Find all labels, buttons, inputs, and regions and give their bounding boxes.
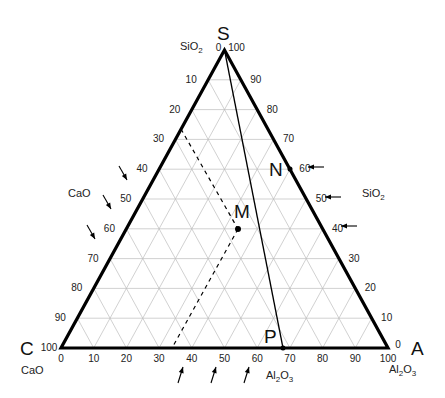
arrowhead-icon (212, 367, 217, 373)
point-label-p: P (264, 326, 277, 347)
point-label-m: M (234, 201, 250, 222)
tick-right: 40 (332, 223, 344, 234)
tick-bottom: 40 (186, 353, 198, 364)
tick-bottom: 30 (154, 353, 166, 364)
tick-bottom: 70 (284, 353, 296, 364)
tick-left: 30 (153, 133, 165, 144)
tick-vertex: 100 (41, 342, 58, 353)
vertex-label-s: S (217, 23, 230, 44)
tick-left: 80 (71, 282, 83, 293)
tick-left: 70 (87, 253, 99, 264)
vertex-label-c: C (20, 338, 34, 359)
tick-left: 40 (137, 163, 149, 174)
tick-vertex: 0 (395, 339, 401, 350)
tick-vertex: 0 (216, 42, 222, 53)
point-label-n: N (269, 159, 283, 180)
tick-left: 20 (169, 104, 181, 115)
tick-left: 50 (120, 193, 132, 204)
tick-right: 90 (250, 74, 262, 85)
axis-label-right-sio2: SiO2 (362, 187, 385, 202)
axis-label-top-sio2: SiO2 (180, 40, 203, 55)
grid-line (290, 259, 339, 348)
axis-label-left-cao: CaO (68, 187, 91, 199)
tick-right: 50 (316, 193, 328, 204)
tick-right: 80 (267, 104, 279, 115)
tick-right: 70 (283, 133, 295, 144)
tick-right: 20 (365, 282, 377, 293)
tick-bottom: 90 (350, 353, 362, 364)
tick-bottom: 0 (58, 353, 64, 364)
grid-line (77, 318, 93, 348)
ternary-diagram: S C A N M P SiO2 CaO SiO2 CaO Al2O3 Al2O… (0, 0, 445, 398)
tick-left: 60 (104, 223, 116, 234)
grid-line (143, 199, 225, 348)
tick-labels: 0109010208020307030406040505050604060703… (41, 42, 402, 364)
point-n-marker (288, 167, 293, 172)
tick-bottom: 100 (380, 353, 397, 364)
tick-vertex: 100 (228, 42, 245, 53)
tick-right: 30 (348, 253, 360, 264)
axis-label-bottom-al2o3: Al2O3 (266, 369, 294, 384)
tick-bottom: 50 (219, 353, 231, 364)
dashed-guide-line (181, 129, 238, 229)
tick-left: 10 (186, 74, 198, 85)
grid-line (94, 80, 241, 348)
grid-line (355, 318, 371, 348)
point-p-marker (281, 346, 286, 351)
vertex-label-a: A (411, 338, 424, 359)
arrowhead-icon (179, 367, 184, 373)
tick-bottom: 80 (317, 353, 329, 364)
tick-bottom: 20 (121, 353, 133, 364)
tick-bottom: 60 (252, 353, 264, 364)
tick-bottom: 10 (88, 353, 100, 364)
grid-lines (77, 80, 371, 348)
tick-left: 90 (55, 312, 67, 323)
grid-line (110, 259, 159, 348)
axis-label-corner-al2o3: Al2O3 (389, 363, 417, 378)
axis-label-bottom-cao: CaO (21, 364, 44, 376)
grid-line (159, 139, 273, 348)
arrowhead-icon (245, 367, 250, 373)
tick-right: 10 (381, 312, 393, 323)
grid-line (208, 80, 355, 348)
tick-right: 60 (299, 163, 311, 174)
